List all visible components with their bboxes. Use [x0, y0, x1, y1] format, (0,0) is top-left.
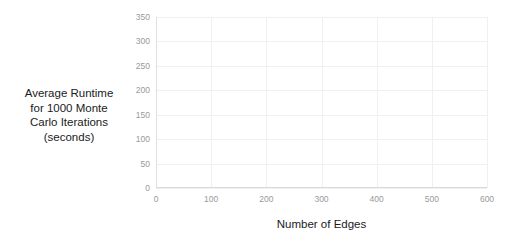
y-tick-label: 350 [124, 12, 150, 22]
y-tick-label: 50 [124, 159, 150, 169]
chart-figure: Average Runtime for 1000 Monte Carlo Ite… [0, 0, 519, 249]
y-axis-title-line-4: (seconds) [8, 130, 130, 145]
y-axis-title-line-3: Carlo Iterations [8, 115, 130, 130]
x-tick-label: 0 [141, 194, 171, 204]
y-axis-title-line-2: for 1000 Monte [8, 101, 130, 116]
y-tick-label: 0 [124, 183, 150, 193]
x-tick-label: 100 [196, 194, 226, 204]
plot-area [156, 17, 487, 188]
x-tick-label: 500 [417, 194, 447, 204]
y-axis-title-line-1: Average Runtime [8, 86, 130, 101]
y-tick-label: 300 [124, 36, 150, 46]
x-axis-line [156, 187, 487, 188]
x-tick-label: 300 [307, 194, 337, 204]
x-tick-label: 400 [362, 194, 392, 204]
gridline-vertical [377, 17, 378, 188]
y-tick-label: 100 [124, 134, 150, 144]
x-axis-title: Number of Edges [156, 218, 487, 230]
x-tick-label: 600 [472, 194, 502, 204]
gridline-horizontal [156, 188, 487, 189]
gridline-vertical [322, 17, 323, 188]
gridline-vertical [487, 17, 488, 188]
y-tick-label: 250 [124, 61, 150, 71]
gridline-vertical [211, 17, 212, 188]
gridline-vertical [266, 17, 267, 188]
x-tick-label: 200 [251, 194, 281, 204]
y-tick-label: 200 [124, 85, 150, 95]
y-axis-title: Average Runtime for 1000 Monte Carlo Ite… [8, 86, 130, 144]
y-tick-label: 150 [124, 110, 150, 120]
gridline-vertical [432, 17, 433, 188]
y-axis-line [156, 17, 157, 188]
